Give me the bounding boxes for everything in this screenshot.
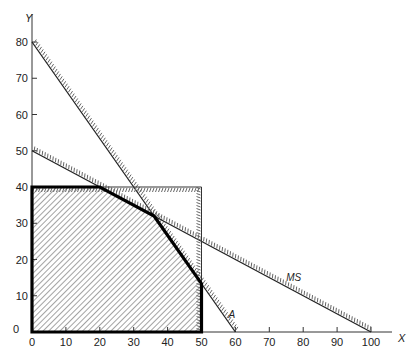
x-tick-label: 80 xyxy=(297,336,309,348)
y-tick-label: 20 xyxy=(16,254,28,266)
x-tick-label: 0 xyxy=(29,336,35,348)
x-tick-label: 100 xyxy=(362,336,380,348)
label-a: A xyxy=(228,309,236,320)
x-tick-label: 10 xyxy=(60,336,72,348)
x-tick-label: 20 xyxy=(94,336,106,348)
y-tick-label: 50 xyxy=(16,145,28,157)
x-tick-label: 50 xyxy=(195,336,207,348)
y-tick-label: 0 xyxy=(13,323,19,335)
x-axis-label: X xyxy=(397,332,406,344)
x-tick-label: 60 xyxy=(229,336,241,348)
label-ms: MS xyxy=(286,272,301,283)
plot-area: AMS xyxy=(32,40,371,332)
y-tick-label: 30 xyxy=(16,217,28,229)
x-tick-label: 90 xyxy=(331,336,343,348)
y-tick-label: 70 xyxy=(16,72,28,84)
y-axis-label: Y xyxy=(25,12,33,24)
x-tick-label: 70 xyxy=(263,336,275,348)
linear-programming-chart: 010203040506070809010001020304050607080 … xyxy=(0,0,420,355)
feasible-region-fill xyxy=(32,187,202,332)
x-tick-label: 40 xyxy=(161,336,173,348)
y-tick-label: 80 xyxy=(16,36,28,48)
y-tick-label: 40 xyxy=(16,181,28,193)
x-tick-label: 30 xyxy=(128,336,140,348)
y-tick-label: 10 xyxy=(16,290,28,302)
y-tick-label: 60 xyxy=(16,109,28,121)
